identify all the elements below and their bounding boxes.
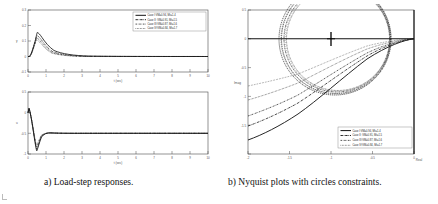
chart-load-step-responses: 0.3 0.2 0.1 0 -0.1 y [4, 4, 216, 170]
figure-container: 0.3 0.2 0.1 0 -0.1 y [0, 0, 438, 204]
xtick-label: 10 [206, 156, 210, 160]
y-axis-label: Imag [234, 81, 241, 85]
ytick-label: 0.2 [22, 24, 26, 28]
x-axis-label: t (sec) [114, 79, 123, 83]
legend-label: Case III:VM=0.87, Mt=1.6 [148, 22, 178, 26]
caption-b: b) Nyquist plots with circles constraint… [228, 177, 382, 187]
chart-nyquist-plots: 0.5 0 -0.5 -1 -1.5 Imag -2 -1.5 -1 -0.5 [222, 4, 428, 170]
ytick-label: 0.5 [242, 8, 246, 12]
series-curve-case-1 [28, 33, 208, 57]
series-curve-case-2 [28, 109, 208, 149]
ytick-label: -1 [23, 152, 26, 156]
xtick-label: 10 [206, 74, 210, 78]
xtick-label: 7 [153, 74, 155, 78]
xtick-label: 4 [99, 156, 101, 160]
legend-label: Case I:VM=0.94, Mt=1.4 [353, 129, 382, 133]
ytick-label: 0 [24, 55, 26, 59]
chart-legend: Case I:VM=0.94, Mt=1.4 Case II: VM=0.91,… [133, 12, 206, 31]
x-axis-label: Real [416, 158, 423, 162]
xtick-label: 9 [189, 156, 191, 160]
y-axis-label: u [16, 121, 18, 125]
xtick-label: 6 [135, 156, 137, 160]
legend-label: Case II: VM=0.91, Mt=1.5 [353, 133, 383, 137]
xtick-label: 8 [171, 74, 173, 78]
series-curve-case-4 [28, 40, 208, 57]
series-curve-case-1 [248, 39, 414, 140]
xtick-label: 0 [27, 74, 29, 78]
xtick-label: 0 [27, 156, 29, 160]
legend-label: Case IV:VM=0.84, Mt=1.7 [148, 26, 178, 30]
ytick-label: 0 [24, 111, 26, 115]
xtick-label: 3 [81, 156, 83, 160]
legend-label: Case IV:VM=0.84, Mt=1.7 [353, 143, 383, 147]
series-curve-case-1 [28, 108, 208, 151]
xtick-label: -0.5 [370, 156, 375, 160]
subplot-load-step-control: 0.5 0 -0.5 -1 u [16, 90, 210, 164]
page-corner-mark [2, 194, 7, 200]
ytick-label: -1 [243, 95, 246, 99]
xtick-label: 2 [63, 156, 65, 160]
ytick-label: -0.1 [21, 70, 26, 74]
series-curve-case-2 [248, 39, 414, 126]
xtick-label: 9 [189, 74, 191, 78]
xtick-label: 1 [45, 156, 47, 160]
xtick-label: 2 [63, 74, 65, 78]
ytick-label: 0.5 [22, 90, 26, 94]
xtick-label: 5 [117, 156, 119, 160]
y-axis-label: y [16, 39, 18, 43]
ytick-label: 0.1 [22, 39, 26, 43]
series-curve-case-3 [28, 38, 208, 57]
xtick-label: 4 [99, 74, 101, 78]
chart-legend: Case I:VM=0.94, Mt=1.4 Case II: VM=0.91,… [338, 127, 412, 148]
x-axis-label: t (sec) [114, 161, 123, 165]
xtick-label: 5 [117, 74, 119, 78]
series-curve-case-4 [28, 110, 208, 145]
ytick-label: -0.5 [21, 132, 26, 136]
xtick-label: 3 [81, 74, 83, 78]
critical-point-marker [327, 32, 335, 46]
legend-label: Case II: VM=0.91, Mt=1.5 [148, 18, 178, 22]
legend-label: Case I:VM=0.94, Mt=1.4 [148, 13, 177, 17]
xtick-label: -1 [330, 156, 333, 160]
ytick-label: 0.3 [22, 8, 26, 12]
xtick-label: 8 [171, 156, 173, 160]
subplot-nyquist: 0.5 0 -0.5 -1 -1.5 Imag -2 -1.5 -1 -0.5 [234, 4, 422, 162]
ytick-label: -0.5 [241, 66, 246, 70]
xtick-label: -1.5 [287, 156, 292, 160]
series-curve-case-3 [28, 109, 208, 147]
ytick-label: -1.5 [241, 124, 246, 128]
xtick-label: 6 [135, 74, 137, 78]
xtick-label: -2 [247, 156, 250, 160]
subplot-load-step-output: 0.3 0.2 0.1 0 -0.1 y [16, 8, 210, 82]
xtick-label: 1 [45, 74, 47, 78]
ytick-label: 0 [244, 37, 246, 41]
legend-label: Case III:VM=0.87, Mt=1.6 [353, 138, 383, 142]
xtick-label: 7 [153, 156, 155, 160]
caption-a: a) Load-step responses. [44, 177, 133, 187]
